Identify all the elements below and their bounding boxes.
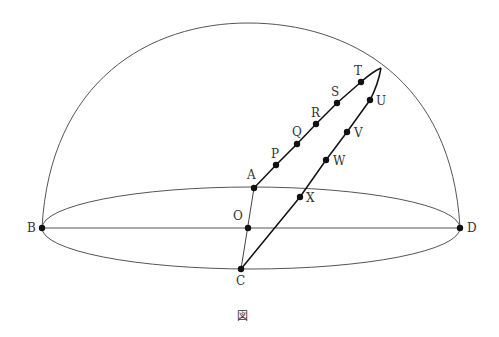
point-Q (294, 141, 300, 147)
label-X: X (306, 192, 315, 204)
label-T: T (354, 65, 362, 77)
point-A (251, 185, 257, 191)
label-B: B (27, 222, 36, 234)
label-U: U (376, 95, 386, 107)
point-B (39, 225, 45, 231)
point-W (323, 157, 329, 163)
label-S: S (331, 86, 339, 98)
point-P (273, 162, 279, 168)
label-R: R (311, 107, 320, 119)
label-V: V (354, 127, 363, 139)
point-O (245, 225, 251, 231)
point-X (297, 194, 303, 200)
point-T (358, 79, 364, 85)
point-R (313, 121, 319, 127)
label-A: A (247, 169, 256, 181)
label-C: C (236, 275, 245, 287)
label-Q: Q (292, 126, 302, 138)
label-P: P (271, 148, 279, 160)
point-D (457, 225, 463, 231)
point-S (334, 100, 340, 106)
label-D: D (467, 222, 477, 234)
label-O: O (233, 210, 243, 222)
figure-caption: 図 (237, 307, 248, 323)
curve-apex-to-C (241, 68, 381, 269)
hemisphere-dome-arc (42, 23, 460, 228)
label-W: W (333, 155, 345, 167)
point-V (344, 129, 350, 135)
point-U (367, 97, 373, 103)
point-C (238, 266, 244, 272)
